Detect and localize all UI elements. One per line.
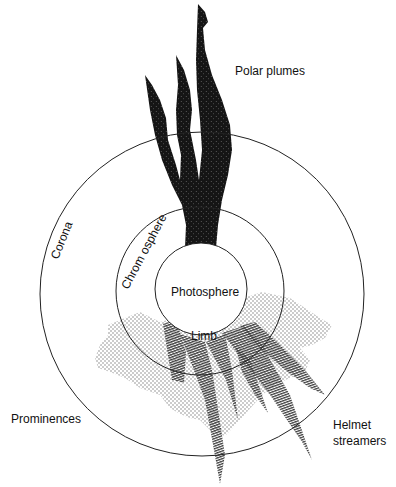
corona-label: Corona [48, 219, 76, 261]
limb-label: Limb [191, 329, 217, 343]
photosphere-label: Photosphere [171, 285, 239, 299]
polar-plumes-label: Polar plumes [235, 64, 305, 78]
sun-diagram: Polar plumes Corona Chrom osphere Photos… [0, 0, 396, 487]
polar-plumes [145, 4, 232, 248]
helmet-streamers-label-line2: streamers [333, 434, 386, 448]
helmet-streamers-label-line1: Helmet [333, 418, 372, 432]
prominences-label: Prominences [11, 412, 81, 426]
